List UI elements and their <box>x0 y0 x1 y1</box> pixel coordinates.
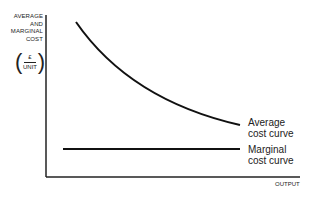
y-axis-label: AVERAGE AND MARGINAL COST <box>11 13 43 43</box>
average-cost-curve <box>76 22 240 125</box>
ylabel-line: AVERAGE <box>11 13 43 21</box>
ylabel-line: COST <box>11 36 43 44</box>
fraction-bar <box>24 62 36 63</box>
label-line: Marginal <box>248 144 294 155</box>
ylabel-line: AND <box>11 21 43 29</box>
marginal-cost-label: Marginal cost curve <box>248 144 294 166</box>
label-line: Average <box>248 117 294 128</box>
right-paren: ) <box>38 51 45 73</box>
chart-plot <box>0 0 311 197</box>
x-axis-label: OUTPUT <box>275 181 300 187</box>
ylabel-line: MARGINAL <box>11 28 43 36</box>
average-cost-label: Average cost curve <box>248 117 294 139</box>
label-line: cost curve <box>248 128 294 139</box>
y-axis-unit: ( £ UNIT ) <box>15 51 45 75</box>
label-line: cost curve <box>248 155 294 166</box>
